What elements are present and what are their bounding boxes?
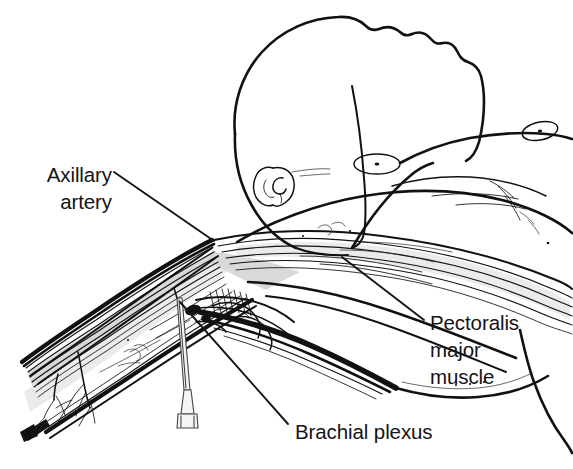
brachial-plexus-label-line1: Brachial plexus <box>295 420 433 443</box>
axillary-artery-label-line1: Axillary <box>47 163 113 186</box>
anatomical-figure: Axillary artery Pectoralis major muscle … <box>0 0 573 469</box>
axillary-artery-label-line2: artery <box>60 190 113 213</box>
label-brachial-plexus: Brachial plexus <box>295 420 433 443</box>
pectoralis-label-line1: Pectoralis <box>430 311 519 334</box>
illustration-canvas: Axillary artery Pectoralis major muscle … <box>0 0 573 469</box>
pectoralis-label-line2: major <box>430 338 481 361</box>
pectoralis-label-line3: muscle <box>430 365 494 388</box>
canvas-background <box>0 0 573 469</box>
